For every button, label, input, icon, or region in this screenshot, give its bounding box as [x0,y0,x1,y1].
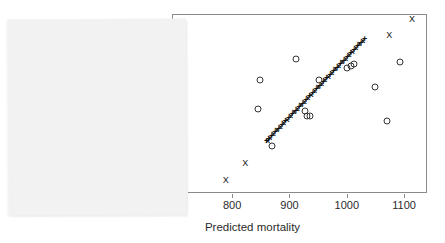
data-point-circle [384,118,391,125]
data-point-x: X [242,158,248,167]
x-tick-mark [347,194,348,198]
x-tick-label: 800 [223,199,241,211]
data-point-circle [254,105,261,112]
x-axis-title: Predicted mortality [0,221,445,233]
x-tick-mark [232,194,233,198]
data-point-circle [350,61,357,68]
data-point-circle [256,77,263,84]
data-point-circle [316,77,323,84]
data-point-circle [293,55,300,62]
data-point-plus: + [362,35,367,44]
data-point-x: X [223,176,229,185]
x-tick-label: 900 [280,199,298,211]
data-point-circle [397,59,404,66]
data-point-circle [307,113,314,120]
data-point-circle [269,143,276,150]
overlay-blank-panel[interactable] [7,18,186,215]
data-point-x: X [409,15,415,24]
x-axis-title-text: Predicted mortality [205,221,300,233]
x-tick-mark [404,194,405,198]
x-tick-mark [289,194,290,198]
data-point-circle [371,84,378,91]
data-point-x: X [386,31,392,40]
x-tick-label: 1100 [392,199,416,211]
x-tick-label: 1000 [335,199,359,211]
